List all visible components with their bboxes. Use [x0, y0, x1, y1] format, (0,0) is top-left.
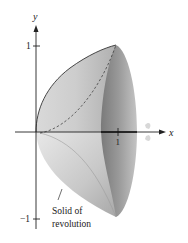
y-tick-label-neg1: −1 [20, 214, 30, 224]
x-axis-arrow-icon [159, 130, 166, 135]
annotation-leader [58, 189, 62, 200]
y-axis-label: y [32, 11, 38, 22]
solid-of-revolution-figure: y x 1 1 −1 Solid of revolution [0, 0, 188, 243]
figure-svg: y x 1 1 −1 Solid of revolution [0, 0, 188, 243]
y-axis-arrow-icon [34, 25, 39, 32]
x-axis-label: x [168, 127, 174, 138]
y-tick-label-1: 1 [26, 41, 31, 51]
annotation-line-2: revolution [52, 219, 91, 229]
x-tick-label-1: 1 [116, 137, 121, 147]
annotation-line-1: Solid of [52, 206, 83, 216]
